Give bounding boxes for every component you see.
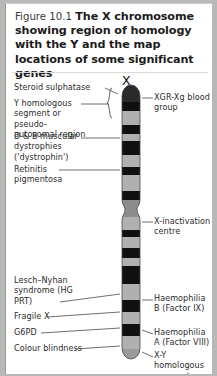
label-x-inactivation-centre: X-inactivation centre xyxy=(154,216,212,237)
bracket-y-homologous xyxy=(107,88,112,118)
figure-title: Figure 10.1 The X chromosome showing reg… xyxy=(15,10,203,81)
figure-card: Figure 10.1 The X chromosome showing reg… xyxy=(5,3,212,374)
label-xgr-xg-blood-group: XGR-Xg blood group xyxy=(154,92,212,113)
label-steroid-sulphatase: Steroid sulphatase xyxy=(14,82,106,92)
figure-root: Figure 10.1 The X chromosome showing reg… xyxy=(0,0,217,376)
chromosome-diagram: X xyxy=(6,72,212,374)
chromosome-body xyxy=(120,82,142,365)
figure-number: Figure 10.1 xyxy=(15,11,75,22)
label-haemophilia-b: Haemophilia B (Factor IX) xyxy=(154,293,212,314)
label-muscular-dystrophies: D & B muscular dystrophies ('dystrophin'… xyxy=(14,131,84,162)
label-x-y-homologous-segment: X-Y homologous segment xyxy=(154,350,212,374)
band-p-terminal xyxy=(120,84,142,102)
leader-lines-right xyxy=(142,98,153,357)
label-colour-blindness: Colour blindness xyxy=(14,343,84,353)
label-haemophilia-a: Haemophilia A (Factor VIII) xyxy=(154,327,212,348)
label-retinitis-pigmentosa: Retinitis pigmentosa xyxy=(14,164,76,185)
label-fragile-x: Fragile X xyxy=(14,311,70,321)
band-q-terminal xyxy=(120,349,142,365)
leader-steroid-sulphatase xyxy=(105,88,118,94)
leader-haemophilia-a xyxy=(142,330,153,334)
label-lesch-nyhan-syndrome: Lesch–Nyhan syndrome (HG PRT) xyxy=(14,275,76,306)
leader-x-y-homologous xyxy=(142,352,153,357)
figure-caption: Figure 10.1 The X chromosome showing reg… xyxy=(6,4,212,72)
label-g6pd: G6PD xyxy=(14,327,70,337)
